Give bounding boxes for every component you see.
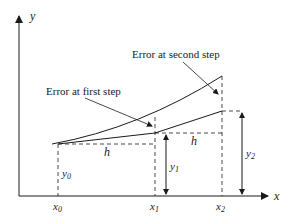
first-error-annotation: Error at first step: [46, 85, 121, 97]
first-error-pointer: [85, 98, 152, 126]
x2-label: x2: [215, 200, 225, 214]
y0-label: y0: [61, 167, 71, 181]
x1-label: x1: [149, 200, 159, 214]
h-label-1: h: [104, 145, 110, 159]
x-axis-label: x: [273, 189, 280, 203]
h-label-2: h: [191, 134, 197, 148]
y1-label: y1: [169, 160, 179, 174]
euler-step-1: [58, 133, 155, 144]
y2-label: y2: [245, 147, 255, 161]
euler-step-2: [155, 111, 222, 133]
y-axis-label: y: [29, 9, 36, 23]
second-error-annotation: Error at second step: [132, 48, 220, 60]
x0-label: x0: [52, 200, 62, 214]
euler-error-diagram: y x h h y0 y1 y2 x0 x1 x2 Error at first…: [0, 0, 286, 224]
